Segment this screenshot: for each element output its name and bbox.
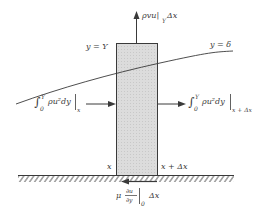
shear-denominator: ∂y — [126, 197, 133, 203]
top-flux-subscript: Y — [162, 18, 166, 24]
shear-tail: Δx — [149, 192, 159, 200]
left-integral-upper: Y — [41, 94, 45, 100]
control-volume-box — [117, 44, 158, 176]
right-flux-arrowhead-icon — [178, 101, 186, 107]
shear-numerator: ∂u — [126, 188, 133, 194]
top-flux-arrowhead-icon — [134, 11, 140, 19]
shear-mu: μ — [116, 192, 121, 200]
left-flux-arrowhead-icon — [108, 101, 116, 107]
right-integral-lower: 0 — [194, 106, 198, 112]
y-equals-delta-label: y = δ — [210, 41, 231, 49]
right-integral-upper: Y — [195, 94, 199, 100]
x-left-label: x — [107, 163, 112, 171]
right-integral-body: ρu²dy — [202, 98, 225, 106]
left-integral-eval: x — [77, 107, 80, 113]
top-flux-label: ρvu| — [142, 12, 159, 20]
y-equals-Y-label: y = Y — [86, 43, 108, 51]
left-integral-body: ρu²dy — [48, 98, 71, 106]
x-right-label: x + Δx — [161, 163, 188, 171]
shear-eval: 0 — [141, 201, 145, 207]
top-flux-tail: Δx — [167, 12, 177, 20]
left-integral-lower: 0 — [40, 106, 44, 112]
right-integral-eval: x + Δx — [232, 107, 252, 113]
